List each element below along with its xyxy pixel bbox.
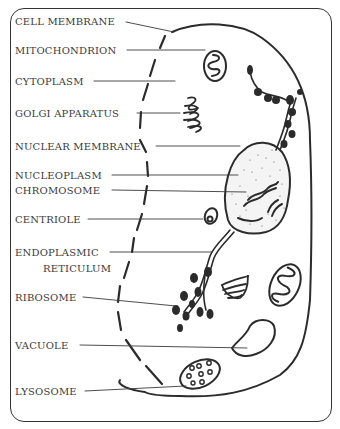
label-golgi-apparatus: GOLGI APPARATUS — [15, 108, 119, 119]
cell-membrane-dashes — [118, 36, 165, 384]
label-mitochondrion: MITOCHONDRION — [15, 45, 116, 56]
lysosome — [175, 353, 224, 394]
golgi-apparatus — [184, 97, 201, 132]
mitochondrion-right — [263, 259, 307, 311]
label-reticulum: RETICULUM — [43, 263, 111, 274]
label-nucleoplasm: NUCLEOPLASM — [15, 170, 102, 181]
ribosomes-upper — [247, 65, 303, 148]
centriole — [203, 206, 220, 225]
label-endoplasmic: ENDOPLASMIC — [15, 247, 99, 258]
mitochondrion-top — [204, 51, 226, 81]
golgi-small — [222, 276, 248, 298]
label-chromosome: CHROMOSOME — [15, 185, 100, 196]
label-cell-membrane: CELL MEMBRANE — [15, 16, 115, 27]
label-centriole: CENTRIOLE — [15, 214, 81, 225]
label-ribosome: RIBOSOME — [15, 292, 76, 303]
label-lysosome: LYSOSOME — [15, 386, 77, 397]
label-nuclear-membrane: NUCLEAR MEMBRANE — [15, 141, 141, 152]
label-vacuole: VACUOLE — [15, 340, 68, 351]
label-cytoplasm: CYTOPLASM — [15, 76, 84, 87]
vacuole — [232, 320, 275, 356]
